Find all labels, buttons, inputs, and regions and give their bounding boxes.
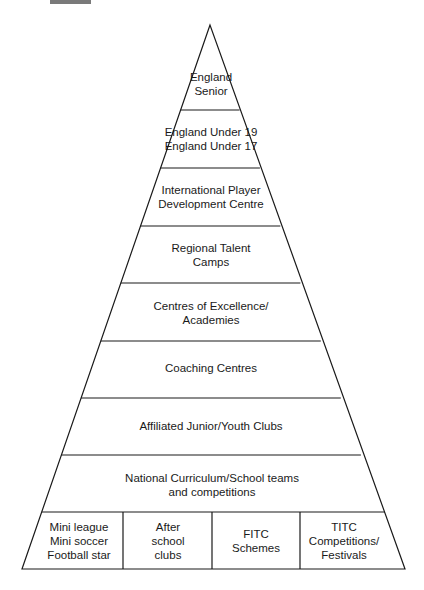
tier-label-line: Coaching Centres [165,361,257,375]
tier-national-curriculum: National Curriculum/School teams and com… [125,471,299,499]
tier-label-line: National Curriculum/School teams [125,471,299,485]
tier-affiliated-clubs: Affiliated Junior/Youth Clubs [139,419,282,433]
tier-england-senior: England Senior [190,70,232,98]
cell-label-line: clubs [151,548,184,562]
cell-label-line: Schemes [232,541,280,555]
cell-label-line: TITC [309,520,379,534]
tier-label-line: Regional Talent [171,241,250,255]
tier-label-line: Centres of Excellence/ [153,299,268,313]
cell-label-line: Competitions/ [309,534,379,548]
tier-england-youth: England Under 19 England Under 17 [165,125,258,153]
tier-label-line: and competitions [125,485,299,499]
cell-label-line: school [151,534,184,548]
tier-label-line: England [190,70,232,84]
tier-label-line: Senior [190,84,232,98]
cell-label-line: Football star [47,548,110,562]
cell-label-line: Festivals [309,548,379,562]
tier-label-line: England Under 19 [165,125,258,139]
tier-international-player-development: International Player Development Centre [158,183,263,211]
base-cell-fitc-schemes: FITC Schemes [232,527,280,555]
tier-centres-of-excellence: Centres of Excellence/ Academies [153,299,268,327]
base-cell-mini-league: Mini league Mini soccer Football star [47,520,110,562]
tier-coaching-centres: Coaching Centres [165,361,257,375]
cell-label-line: FITC [232,527,280,541]
tier-label-line: Development Centre [158,197,263,211]
cell-label-line: After [151,520,184,534]
tier-regional-talent-camps: Regional Talent Camps [171,241,250,269]
cell-label-line: Mini league [47,520,110,534]
tier-label-line: Camps [171,255,250,269]
tier-label-line: Academies [153,313,268,327]
cell-label-line: Mini soccer [47,534,110,548]
tier-label-line: International Player [158,183,263,197]
base-cell-titc-competitions: TITC Competitions/ Festivals [309,520,379,562]
base-cell-after-school-clubs: After school clubs [151,520,184,562]
tier-label-line: Affiliated Junior/Youth Clubs [139,419,282,433]
tier-label-line: England Under 17 [165,139,258,153]
